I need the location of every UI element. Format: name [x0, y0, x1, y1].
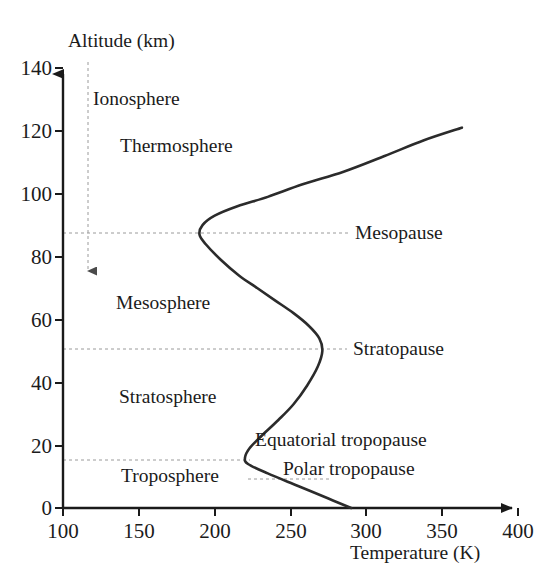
layer-label-thermosphere: Thermosphere	[120, 136, 233, 156]
layer-label-ionosphere: Ionosphere	[93, 89, 180, 109]
x-tick-label-300: 300	[336, 521, 396, 542]
y-tick-label-140: 140	[8, 58, 52, 79]
boundary-label-stratopause: Stratopause	[353, 339, 444, 359]
boundary-label-mesopause: Mesopause	[355, 223, 443, 243]
y-tick-label-100: 100	[8, 184, 52, 205]
x-tick-label-350: 350	[412, 521, 472, 542]
y-tick-label-0: 0	[8, 498, 52, 519]
chart-canvas	[0, 0, 560, 573]
layer-label-mesosphere: Mesosphere	[116, 293, 210, 313]
boundary-label-polar-tropopause: Polar tropopause	[283, 459, 415, 479]
temperature-profile-curve	[199, 128, 462, 508]
x-tick-label-150: 150	[109, 521, 169, 542]
y-tick-label-60: 60	[8, 310, 52, 331]
x-tick-label-100: 100	[33, 521, 93, 542]
y-tick-label-80: 80	[8, 247, 52, 268]
x-tick-label-250: 250	[261, 521, 321, 542]
y-tick-label-120: 120	[8, 121, 52, 142]
y-tick-label-20: 20	[8, 436, 52, 457]
boundary-label-equatorial-tropopause: Equatorial tropopause	[255, 430, 427, 450]
atmosphere-temperature-profile-figure: 140 120 100 80 60 40 20 0 100 150 200 25…	[0, 0, 560, 573]
y-axis-title: Altitude (km)	[68, 31, 175, 51]
layer-label-stratosphere: Stratosphere	[119, 387, 216, 407]
layer-label-troposphere: Troposphere	[121, 466, 219, 486]
y-tick-label-40: 40	[8, 373, 52, 394]
x-tick-label-400: 400	[488, 521, 548, 542]
x-tick-label-200: 200	[185, 521, 245, 542]
x-axis-title: Temperature (K)	[350, 543, 480, 563]
